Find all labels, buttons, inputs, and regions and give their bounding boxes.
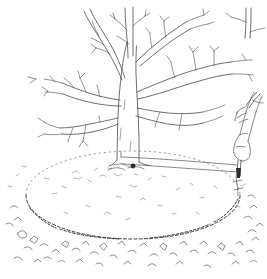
illustration-canvas: [0, 0, 267, 279]
paper-background: [0, 0, 267, 279]
string-tie-knot: [131, 164, 136, 169]
line-drawing-illustration: Marking the drip line circle around a ba…: [0, 0, 267, 279]
